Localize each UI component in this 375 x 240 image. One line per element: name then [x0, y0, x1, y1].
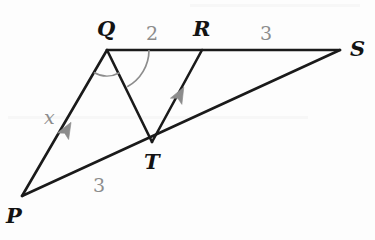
vertex-label-P: P — [6, 205, 22, 226]
angle-TQR-arc — [127, 50, 149, 87]
vertex-label-S: S — [350, 38, 365, 59]
measure-label-3-on-PT: 3 — [93, 176, 105, 195]
segment-PS — [22, 50, 340, 196]
vertex-label-T: T — [144, 151, 160, 172]
segments-group — [22, 50, 340, 196]
figure-canvas — [0, 0, 375, 240]
measure-label-x-on-PQ: x — [44, 108, 55, 127]
vertex-label-R: R — [193, 18, 210, 39]
vertex-label-Q: Q — [97, 18, 115, 39]
geometry-diagram: PQRST x323 — [0, 0, 375, 240]
measure-label-3-on-RS: 3 — [260, 24, 272, 43]
segment-QT — [107, 50, 152, 142]
angle-PQT-arc — [94, 72, 120, 76]
measure-label-2-on-QR: 2 — [146, 24, 158, 43]
